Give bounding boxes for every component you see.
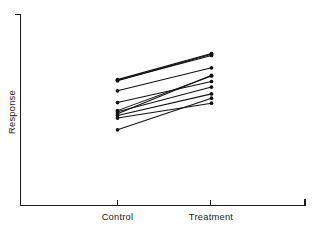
y-axis-title: Response	[7, 90, 17, 134]
data-point-marker	[210, 92, 214, 96]
data-point-marker	[116, 116, 120, 120]
axis-frame	[15, 14, 306, 206]
x-tick-label-control: Control	[102, 212, 134, 222]
series-line	[118, 68, 212, 91]
chart-figure: Control Treatment Response	[0, 0, 322, 236]
data-point-marker	[210, 52, 214, 56]
data-point-marker	[116, 89, 120, 93]
data-point-marker	[210, 66, 214, 70]
x-axis-ticks	[118, 200, 211, 206]
data-point-marker	[116, 79, 120, 83]
series-line	[118, 94, 212, 116]
data-point-marker	[116, 128, 120, 132]
data-point-marker	[210, 85, 214, 89]
data-point-marker	[210, 96, 214, 100]
series-layer	[116, 52, 214, 132]
series-line	[118, 75, 212, 113]
data-point-marker	[210, 80, 214, 84]
series-line	[118, 54, 212, 81]
x-tick-label-treatment: Treatment	[189, 212, 233, 222]
paired-slope-chart: Control Treatment Response	[0, 0, 322, 236]
data-point-marker	[210, 73, 214, 77]
series-line	[118, 98, 212, 130]
data-point-marker	[210, 101, 214, 105]
data-point-marker	[116, 101, 120, 105]
series-line	[118, 54, 212, 80]
